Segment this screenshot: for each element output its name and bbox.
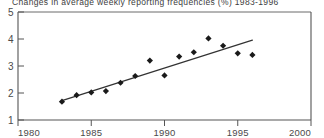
plot-area: 5 4 3 2 1 1980 1985 1990 1995 2000	[0, 0, 324, 138]
x-tick-label-1995: 1995	[227, 127, 249, 138]
x-axis-ticks	[18, 120, 311, 126]
data-point-marker	[205, 35, 211, 41]
data-point-marker	[161, 72, 167, 78]
data-point-marker	[191, 49, 197, 55]
data-point-marker	[235, 50, 241, 56]
chart-figure: Changes in average weekly reporting freq…	[0, 0, 324, 138]
data-point-marker	[74, 92, 80, 98]
data-point-marker	[103, 88, 109, 94]
data-point-marker	[220, 43, 226, 49]
y-tick-label-5: 5	[8, 7, 14, 18]
data-point-marker	[249, 52, 255, 58]
x-tick-label-2000: 2000	[289, 127, 311, 138]
x-tick-label-1985: 1985	[80, 127, 102, 138]
data-point-marker	[117, 80, 123, 86]
y-tick-label-4: 4	[8, 34, 14, 45]
x-tick-label-1990: 1990	[154, 127, 176, 138]
y-tick-label-2: 2	[8, 88, 14, 99]
y-tick-label-1: 1	[8, 115, 14, 126]
data-point-marker	[147, 58, 153, 64]
x-tick-label-1980: 1980	[18, 127, 40, 138]
data-point-marker	[176, 53, 182, 59]
y-tick-label-3: 3	[8, 61, 14, 72]
y-axis-ticks	[18, 12, 24, 120]
